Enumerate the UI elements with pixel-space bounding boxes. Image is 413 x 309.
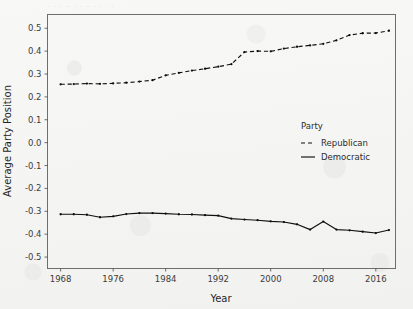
series-point <box>165 74 167 76</box>
series-point <box>86 214 88 216</box>
series-point <box>217 66 219 68</box>
series-point <box>309 228 311 230</box>
x-axis-title: Year <box>209 293 232 304</box>
series-point <box>178 72 180 74</box>
x-tick-label: 2008 <box>312 274 334 284</box>
y-tick-label: 0.3 <box>28 69 42 79</box>
series-point <box>388 229 390 231</box>
series-point <box>243 218 245 220</box>
series-point <box>204 68 206 70</box>
series-point <box>362 32 364 34</box>
series-point <box>362 231 364 233</box>
series-point <box>388 30 390 32</box>
y-tick-label: 0.5 <box>28 23 42 33</box>
series-point <box>217 214 219 216</box>
y-axis-title: Average Party Position <box>2 85 13 197</box>
series-point <box>283 47 285 49</box>
series-point <box>204 214 206 216</box>
series-point <box>256 50 258 52</box>
series-point <box>165 212 167 214</box>
x-tick-label: 1976 <box>102 274 124 284</box>
series-path <box>61 31 389 85</box>
series-point <box>151 79 153 81</box>
series-point <box>178 213 180 215</box>
series-point <box>296 46 298 48</box>
series-point <box>375 32 377 34</box>
series-point <box>375 232 377 234</box>
series-point <box>99 83 101 85</box>
chart-legend: Party Republican Democratic <box>301 121 370 162</box>
series-point <box>191 213 193 215</box>
y-tick-label: -0.4 <box>25 229 42 239</box>
x-tick-label: 2000 <box>260 274 282 284</box>
series-point <box>348 229 350 231</box>
legend-entry-republican: Republican <box>301 138 368 148</box>
series-republican <box>59 30 390 86</box>
series-point <box>59 213 61 215</box>
series-point <box>322 220 324 222</box>
series-point <box>138 212 140 214</box>
series-point <box>99 216 101 218</box>
series-point <box>125 213 127 215</box>
series-point <box>256 219 258 221</box>
legend-label-republican: Republican <box>321 138 368 148</box>
series-point <box>309 44 311 46</box>
series-point <box>191 69 193 71</box>
chart-screenshot: . . . .. . . .. . . . . -0.5-0.4-0.3-0.2… <box>0 0 413 309</box>
series-point <box>112 215 114 217</box>
x-tick-label: 1992 <box>207 274 229 284</box>
y-tick-label: 0.0 <box>28 138 42 148</box>
series-point <box>86 82 88 84</box>
series-point <box>283 221 285 223</box>
x-axis-ticks: 1968197619841992200020082016 <box>50 269 387 284</box>
y-axis-ticks: -0.5-0.4-0.3-0.2-0.10.00.10.20.30.40.5 <box>25 23 48 262</box>
x-tick-label: 1984 <box>155 274 177 284</box>
series-point <box>73 213 75 215</box>
series-point <box>230 63 232 65</box>
series-layer <box>59 30 390 235</box>
series-point <box>322 43 324 45</box>
y-tick-label: 0.4 <box>28 46 42 56</box>
series-point <box>230 217 232 219</box>
y-tick-label: -0.2 <box>25 183 42 193</box>
line-chart: . . . .. . . .. . . . . -0.5-0.4-0.3-0.2… <box>0 0 413 309</box>
series-path <box>61 213 389 233</box>
y-tick-label: -0.5 <box>25 252 42 262</box>
x-tick-label: 1968 <box>50 274 72 284</box>
series-point <box>138 80 140 82</box>
series-point <box>335 39 337 41</box>
y-tick-label: -0.3 <box>25 206 42 216</box>
legend-entry-democratic: Democratic <box>301 152 370 162</box>
y-tick-label: -0.1 <box>25 161 42 171</box>
legend-title: Party <box>301 121 323 131</box>
legend-label-democratic: Democratic <box>321 152 370 162</box>
series-point <box>112 82 114 84</box>
series-point <box>348 34 350 36</box>
series-point <box>125 82 127 84</box>
scan-bleedthrough: . . . .. . . .. . . . . <box>48 0 114 9</box>
y-tick-label: 0.2 <box>28 92 42 102</box>
series-point <box>59 83 61 85</box>
x-tick-label: 2016 <box>365 274 387 284</box>
series-democratic <box>59 212 390 234</box>
series-point <box>335 228 337 230</box>
y-tick-label: 0.1 <box>28 115 42 125</box>
svg-text:. . . .. . . .. . .: . . . .. . . .. . . . . <box>48 0 114 9</box>
series-point <box>296 223 298 225</box>
series-point <box>151 212 153 214</box>
series-point <box>270 220 272 222</box>
series-point <box>73 83 75 85</box>
series-point <box>270 50 272 52</box>
series-point <box>243 51 245 53</box>
